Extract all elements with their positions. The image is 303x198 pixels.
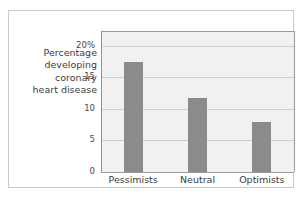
- y-axis-tick-label: 5: [90, 134, 95, 144]
- x-axis-tick-label: Pessimists: [109, 174, 158, 185]
- y-axis-tick-label: 15: [84, 71, 95, 81]
- plot-area: [101, 31, 295, 172]
- y-axis-line: [101, 31, 102, 172]
- x-axis-tick-label: Optimists: [239, 174, 284, 185]
- bar-series: [101, 32, 294, 172]
- bar: [124, 62, 143, 172]
- bar: [188, 98, 207, 172]
- x-axis-tick-labels: PessimistsNeutralOptimists: [101, 174, 295, 190]
- y-axis-tick-label: 0: [90, 166, 95, 176]
- bar: [252, 122, 271, 172]
- axis-baseline: [101, 172, 294, 173]
- x-axis-tick-label: Neutral: [180, 174, 215, 185]
- y-axis-tick-label: 20%: [76, 40, 95, 50]
- figure-frame: Percentage developing coronary heart dis…: [8, 10, 294, 188]
- y-axis-tick-label: 10: [84, 103, 95, 113]
- bar-chart: Percentage developing coronary heart dis…: [9, 11, 295, 189]
